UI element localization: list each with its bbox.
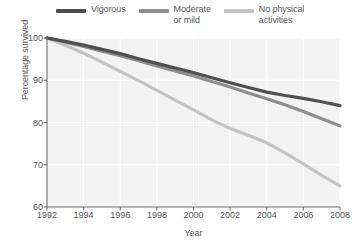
plot-area: [0, 0, 353, 248]
line-chart: Vigorous Moderate or mild No physical ac…: [0, 0, 353, 248]
